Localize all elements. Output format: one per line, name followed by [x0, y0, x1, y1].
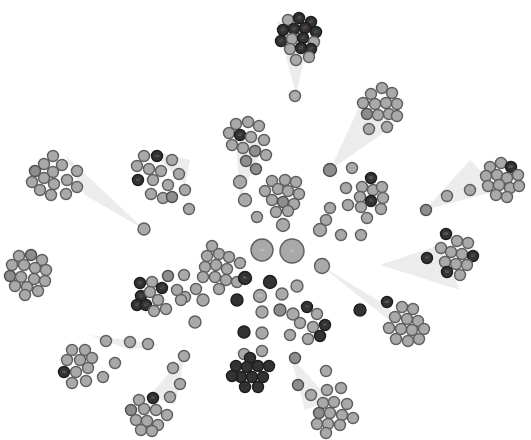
graph-node[interactable]: [125, 337, 136, 348]
graph-node[interactable]: [325, 203, 336, 214]
node-circle[interactable]: [382, 122, 393, 133]
graph-node[interactable]: LT: [235, 130, 246, 141]
graph-node[interactable]: [40, 276, 51, 287]
graph-node[interactable]: [48, 151, 59, 162]
graph-node[interactable]: [138, 223, 150, 235]
node-circle[interactable]: [325, 203, 336, 214]
graph-node[interactable]: [98, 372, 109, 383]
node-circle[interactable]: [273, 184, 284, 195]
node-circle[interactable]: [67, 345, 78, 356]
node-circle[interactable]: [442, 191, 453, 202]
graph-node[interactable]: [35, 185, 46, 196]
graph-node[interactable]: [146, 189, 157, 200]
node-circle[interactable]: [39, 173, 50, 184]
node-circle[interactable]: [283, 186, 294, 197]
graph-node[interactable]: [271, 207, 282, 218]
graph-node[interactable]: [264, 361, 275, 372]
graph-node[interactable]: FI: [148, 393, 159, 404]
node-circle[interactable]: [175, 379, 186, 390]
graph-node[interactable]: [336, 383, 347, 394]
graph-node[interactable]: [254, 121, 265, 132]
node-circle[interactable]: [483, 181, 494, 192]
graph-node[interactable]: [446, 247, 457, 258]
graph-node[interactable]: FI: [302, 302, 313, 313]
graph-node[interactable]: [283, 186, 294, 197]
node-circle[interactable]: [491, 190, 502, 201]
graph-node[interactable]: [238, 326, 250, 338]
graph-node[interactable]: [325, 408, 336, 419]
node-circle[interactable]: [397, 302, 408, 313]
graph-node[interactable]: [329, 397, 340, 408]
graph-node[interactable]: [163, 180, 174, 191]
node-circle[interactable]: [227, 140, 238, 151]
node-circle[interactable]: [384, 323, 395, 334]
node-circle[interactable]: [364, 124, 375, 135]
node-circle[interactable]: [238, 143, 249, 154]
node-circle[interactable]: [358, 98, 369, 109]
graph-node[interactable]: [241, 156, 252, 167]
node-circle[interactable]: [67, 378, 78, 389]
graph-node[interactable]: [314, 224, 327, 237]
graph-node[interactable]: [396, 324, 407, 335]
graph-node[interactable]: [291, 280, 303, 292]
node-circle[interactable]: [156, 166, 167, 177]
graph-node[interactable]: [293, 380, 304, 391]
graph-node[interactable]: [251, 164, 262, 175]
graph-node[interactable]: [72, 182, 83, 193]
graph-node[interactable]: LT: [157, 283, 168, 294]
graph-node[interactable]: LT: [298, 33, 309, 44]
node-circle[interactable]: [163, 271, 174, 282]
graph-node[interactable]: [382, 122, 393, 133]
node-circle[interactable]: [376, 204, 387, 215]
node-circle[interactable]: [337, 410, 348, 421]
node-circle[interactable]: [343, 200, 354, 211]
node-circle[interactable]: [180, 185, 191, 196]
graph-node[interactable]: [222, 264, 233, 275]
node-circle[interactable]: [259, 135, 270, 146]
graph-node[interactable]: [167, 192, 178, 203]
node-circle[interactable]: [167, 192, 178, 203]
node-circle[interactable]: [293, 380, 304, 391]
graph-node[interactable]: [440, 257, 451, 268]
graph-node[interactable]: [377, 83, 388, 94]
node-circle[interactable]: [165, 392, 176, 403]
node-circle[interactable]: [391, 334, 402, 345]
graph-node[interactable]: [355, 192, 366, 203]
graph-node[interactable]: [304, 52, 315, 63]
graph-node[interactable]: [274, 304, 286, 316]
node-circle[interactable]: [387, 88, 398, 99]
graph-node[interactable]: [165, 392, 176, 403]
graph-node[interactable]: [19, 260, 30, 271]
node-circle[interactable]: [462, 260, 473, 271]
graph-node[interactable]: FI: [366, 196, 377, 207]
graph-node[interactable]: [322, 385, 333, 396]
node-circle[interactable]: [336, 230, 347, 241]
graph-node[interactable]: [67, 345, 78, 356]
node-circle[interactable]: [312, 309, 323, 320]
graph-node[interactable]: [373, 110, 384, 121]
node-circle[interactable]: [19, 260, 30, 271]
node-circle[interactable]: [381, 98, 392, 109]
node-circle[interactable]: [231, 294, 243, 306]
graph-node[interactable]: [502, 192, 513, 203]
graph-node[interactable]: [256, 306, 268, 318]
node-circle[interactable]: [224, 252, 235, 263]
node-circle[interactable]: [329, 397, 340, 408]
graph-node[interactable]: [419, 324, 430, 335]
graph-node[interactable]: [347, 163, 358, 174]
node-circle[interactable]: [258, 372, 269, 383]
node-circle[interactable]: [290, 353, 301, 364]
graph-node[interactable]: [377, 182, 388, 193]
graph-node[interactable]: [26, 250, 37, 261]
graph-node[interactable]: [197, 294, 209, 306]
graph-node[interactable]: [315, 331, 326, 342]
graph-node[interactable]: LT: [294, 13, 305, 24]
graph-node[interactable]: [20, 290, 31, 301]
node-circle[interactable]: [136, 425, 147, 436]
graph-node[interactable]: [312, 309, 323, 320]
node-circle[interactable]: [222, 264, 233, 275]
graph-node[interactable]: [198, 272, 209, 283]
node-circle[interactable]: [224, 128, 235, 139]
node-circle[interactable]: [46, 190, 57, 201]
node-circle[interactable]: [303, 334, 314, 345]
